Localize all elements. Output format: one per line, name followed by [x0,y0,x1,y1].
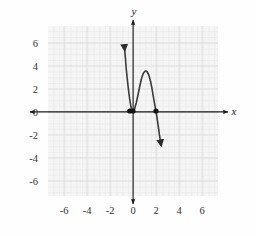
x-tick-label: 0 [130,205,135,216]
y-tick-label: 2 [33,84,38,95]
y-axis-label: y [131,5,137,17]
x-tick-label: -6 [60,205,69,216]
x-tick-label: -2 [106,205,115,216]
y-tick-label: 4 [33,61,39,72]
cubic-function-graph: x y 6 4 2 0 -2 -4 -6 -6 -4 -2 0 2 4 6 [0,0,256,236]
x-tick-label: 2 [153,205,158,216]
y-tick-label: -4 [29,153,38,164]
x-axis-label: x [231,105,237,117]
y-tick-label: -6 [29,176,38,187]
y-tick-label: 6 [33,38,38,49]
curve-point [153,108,158,113]
y-tick-label: -2 [29,130,38,141]
y-tick-label: 0 [33,107,38,118]
x-tick-label: 4 [176,205,182,216]
curve-point [127,108,132,113]
x-tick-label: 6 [199,205,204,216]
x-tick-label: -4 [83,205,92,216]
figure-container: x y 6 4 2 0 -2 -4 -6 -6 -4 -2 0 2 4 6 [0,0,256,236]
